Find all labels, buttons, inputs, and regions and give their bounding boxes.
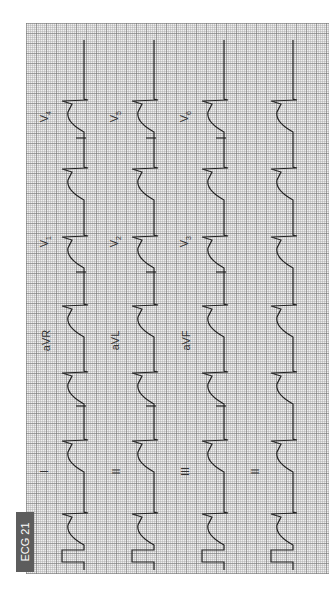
ecg-trace-column-1	[62, 40, 88, 570]
lead-label-V5: V5	[109, 111, 122, 122]
lead-label-V1: V1	[39, 236, 52, 247]
lead-label-III: III	[180, 467, 191, 476]
ecg-trace-column-3	[202, 40, 228, 570]
ecg-trace-column-2	[132, 40, 158, 570]
ecg-trace-column-4	[271, 40, 297, 570]
lead-label-aVF: aVF	[181, 330, 192, 350]
lead-label-V3: V3	[179, 236, 192, 247]
lead-label-V6: V6	[179, 111, 192, 122]
lead-label-I: I	[39, 470, 50, 473]
lead-label-V2: V2	[109, 236, 122, 247]
figure-tag-text: ECG 21	[19, 522, 31, 561]
lead-label-aVR: aVR	[41, 330, 52, 351]
ecg-traces	[0, 0, 334, 592]
lead-label-II-rhythm: II	[250, 468, 261, 474]
lead-label-II: II	[111, 468, 122, 474]
lead-label-V4: V4	[39, 111, 52, 122]
lead-label-aVL: aVL	[110, 331, 121, 351]
figure-tag: ECG 21	[16, 512, 34, 572]
